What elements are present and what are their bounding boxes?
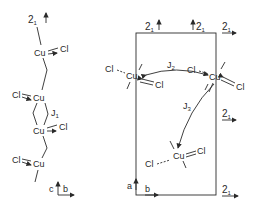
coupling-label: J3 bbox=[183, 101, 192, 112]
cl-atom-label: Cl bbox=[12, 90, 21, 100]
axis-b-label: b bbox=[63, 184, 68, 194]
axis-a-label: a bbox=[127, 181, 132, 191]
unit-cell bbox=[136, 33, 216, 195]
crystal-structure-diagram: 21 Cu Cl Cl Cu J1 Cu Cl Cl Cu c bbox=[0, 0, 254, 204]
cu-atom-label: Cu bbox=[33, 159, 45, 169]
cu-atom-label: Cu bbox=[209, 72, 221, 82]
cl-atom-label: Cl bbox=[145, 159, 154, 169]
left-chain-labels: Cu Cl Cl Cu J1 Cu Cl Cl Cu c b bbox=[12, 44, 69, 194]
screw-axis-label: 21 bbox=[28, 14, 38, 26]
cl-atom-label: Cl bbox=[105, 64, 114, 74]
cl-atom-label: Cl bbox=[155, 80, 164, 90]
cl-atom-label: Cl bbox=[60, 44, 69, 54]
bond-line bbox=[37, 27, 41, 45]
axis-c-label: c bbox=[49, 184, 54, 194]
cl-atom-label: Cl bbox=[187, 65, 196, 75]
cl-atom-label: Cl bbox=[197, 146, 206, 156]
cu-atom-label: Cu bbox=[34, 48, 46, 58]
cl-atom-label: Cl bbox=[59, 122, 68, 132]
screw-axis-label: 21 bbox=[196, 21, 206, 33]
cl-atom-label: Cl bbox=[12, 155, 21, 165]
cu-atom-label: Cu bbox=[33, 93, 45, 103]
coupling-label: J1 bbox=[51, 108, 60, 119]
cl-atom-label: Cl bbox=[236, 82, 245, 92]
screw-axis-label: 21 bbox=[222, 21, 232, 33]
screw-axis-label: 21 bbox=[145, 21, 155, 33]
axis-b-label: b bbox=[145, 184, 150, 194]
unit-cell-box bbox=[136, 33, 216, 195]
screw-axis-label: 21 bbox=[222, 184, 232, 196]
cu-atom-label: Cu bbox=[33, 126, 45, 136]
screw-axis-label: 21 bbox=[222, 108, 232, 120]
j2-coupling-arrow bbox=[146, 70, 208, 75]
j3-coupling-arrow bbox=[178, 84, 214, 148]
cu-atom-label: Cu bbox=[173, 151, 185, 161]
coupling-label: J2 bbox=[167, 60, 176, 71]
cu-atom-label: Cu bbox=[126, 71, 138, 81]
